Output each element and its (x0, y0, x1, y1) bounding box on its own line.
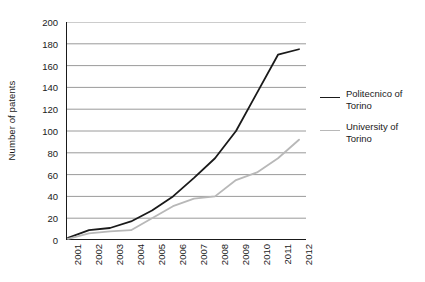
x-axis-tick-label: 2003 (114, 244, 125, 265)
y-axis-title-text: Number of patents (7, 80, 18, 160)
x-axis-tick-label: 2006 (177, 244, 188, 265)
legend-label-line-1: University of (346, 121, 398, 133)
y-axis-tick-label: 60 (22, 169, 62, 180)
y-axis-tick-labels: 020406080100120140160180200 (22, 0, 62, 282)
legend-label-line-2: Torino (346, 100, 403, 112)
chart-legend: Politecnico ofTorinoUniversity ofTorino (320, 88, 425, 154)
x-axis-tick-label: 2010 (261, 244, 272, 265)
y-axis-tick-label: 180 (22, 38, 62, 49)
y-axis-tick-label: 100 (22, 126, 62, 137)
legend-item[interactable]: Politecnico ofTorino (320, 88, 425, 112)
y-axis-tick-label: 80 (22, 147, 62, 158)
x-axis-tick-label: 2004 (135, 244, 146, 265)
y-axis-tick-label: 140 (22, 82, 62, 93)
patents-line-chart: Number of patents 0204060801001201401601… (0, 0, 425, 282)
y-axis-tick-label: 0 (22, 235, 62, 246)
y-axis-tick-label: 40 (22, 191, 62, 202)
x-axis-tick-label: 2001 (72, 244, 83, 265)
series-line-2 (68, 140, 299, 239)
legend-line-swatch (320, 125, 340, 135)
legend-item-label: University ofTorino (346, 121, 398, 145)
x-axis-tick-label: 2012 (303, 244, 314, 265)
plot-area (66, 22, 306, 240)
legend-label-line-1: Politecnico of (346, 88, 403, 100)
y-axis-title: Number of patents (2, 0, 22, 240)
y-axis-tick-label: 200 (22, 17, 62, 28)
plot-svg (66, 22, 306, 240)
x-axis-tick-label: 2002 (93, 244, 104, 265)
x-axis-tick-label: 2009 (240, 244, 251, 265)
legend-label-line-2: Torino (346, 133, 398, 145)
y-axis-tick-label: 160 (22, 60, 62, 71)
legend-item[interactable]: University ofTorino (320, 121, 425, 145)
y-axis-tick-label: 120 (22, 104, 62, 115)
x-axis-tick-label: 2011 (282, 244, 293, 264)
legend-line-swatch (320, 92, 340, 102)
series-line-1 (68, 49, 299, 238)
y-axis-tick-label: 20 (22, 213, 62, 224)
x-axis-tick-label: 2007 (198, 244, 209, 265)
x-axis-tick-label: 2005 (156, 244, 167, 265)
legend-line-glyph (320, 97, 340, 98)
x-axis-tick-labels: 2001200220032004200520062007200820092010… (66, 240, 306, 282)
x-axis-tick-label: 2008 (219, 244, 230, 265)
legend-line-glyph (320, 130, 340, 131)
legend-item-label: Politecnico ofTorino (346, 88, 403, 112)
